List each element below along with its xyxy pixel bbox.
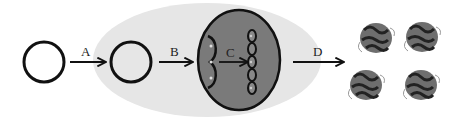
dna-marker [210,61,213,64]
protein-icon [358,23,394,53]
label-a: A [81,44,91,59]
dna-marker [210,45,213,48]
protein-structures [348,22,440,100]
label-b: B [170,44,179,59]
diagram-canvas: A B C D [0,0,454,119]
protein-icon [403,70,439,100]
plasmid-1-icon [24,42,64,82]
cell-nucleus [198,10,280,110]
label-d: D [313,44,322,59]
dna-marker [210,77,213,80]
protein-icon [348,70,384,100]
protein-icon [404,22,440,52]
label-c: C [226,45,235,60]
